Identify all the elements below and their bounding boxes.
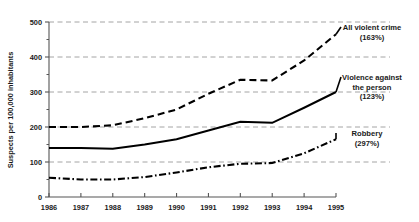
annotation-all-violent-crime-line2: (163%) xyxy=(360,33,385,42)
annotation-robbery-line1: Robbery xyxy=(352,129,384,138)
x-tick-label-1987: 1987 xyxy=(73,203,89,212)
x-axis-tick-labels-group: 1986198719881989199019911992199319941995 xyxy=(41,203,344,212)
y-axis-title: Suspects per 100,000 inhabitants xyxy=(6,52,15,169)
line-chart: 0100200300400500 19861987198819891990199… xyxy=(0,0,419,222)
annotation-robbery-line2: (297%) xyxy=(355,139,380,148)
x-axis-ticks-group xyxy=(49,193,336,197)
series-lines-group xyxy=(49,34,336,179)
annotation-leader-lines-group xyxy=(336,27,341,139)
x-tick-label-1988: 1988 xyxy=(105,203,121,212)
y-axis-tick-labels-group: 0100200300400500 xyxy=(30,18,42,202)
gridlines-group xyxy=(49,22,390,162)
y-tick-label-0: 0 xyxy=(38,193,42,202)
x-tick-label-1990: 1990 xyxy=(168,203,184,212)
y-tick-label-200: 200 xyxy=(30,123,42,132)
x-tick-label-1991: 1991 xyxy=(200,203,216,212)
leader-line-1 xyxy=(336,77,341,92)
y-tick-label-500: 500 xyxy=(30,18,42,27)
annotation-violence-against-person-line3: (123%) xyxy=(360,92,385,101)
leader-line-0 xyxy=(336,27,341,34)
x-tick-label-1994: 1994 xyxy=(296,203,313,212)
y-tick-label-300: 300 xyxy=(30,88,42,97)
x-tick-label-1995: 1995 xyxy=(328,203,344,212)
annotation-violence-against-person-line1: Violence against xyxy=(342,73,402,82)
annotation-robbery: Robbery (297%) xyxy=(352,129,384,148)
y-tick-label-100: 100 xyxy=(30,158,42,167)
x-tick-label-1992: 1992 xyxy=(232,203,248,212)
y-tick-label-400: 400 xyxy=(30,53,42,62)
annotation-all-violent-crime: All violent crime (163%) xyxy=(343,23,402,42)
annotation-violence-against-person: Violence against the person (123%) xyxy=(342,73,402,101)
chart-container: 0100200300400500 19861987198819891990199… xyxy=(0,0,419,222)
annotation-all-violent-crime-line1: All violent crime xyxy=(343,23,402,32)
annotation-violence-against-person-line2: the person xyxy=(353,83,392,92)
x-tick-label-1989: 1989 xyxy=(136,203,152,212)
series-line-robbery xyxy=(49,139,336,179)
x-tick-label-1986: 1986 xyxy=(41,203,57,212)
x-tick-label-1993: 1993 xyxy=(264,203,280,212)
